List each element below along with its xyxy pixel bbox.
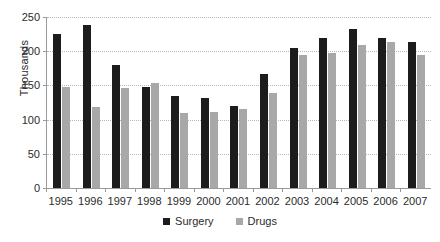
y-axis-tick-label: 150 [14,80,40,91]
bar-drugs-2000 [210,112,218,188]
bar-surgery-2003 [290,48,298,188]
bar-chart: Thousands 250200150100500 19951996199719… [0,0,440,242]
y-axis-tick-labels: 250200150100500 [14,10,40,192]
bar-group [372,17,402,188]
x-axis-tick-mark [400,188,430,193]
bar-group [401,17,431,188]
chart-legend: SurgeryDrugs [0,216,440,227]
bar-drugs-2006 [387,42,395,188]
y-axis-tick-label: 250 [14,12,40,23]
legend-swatch-icon [163,218,170,225]
bar-surgery-2001 [230,106,238,188]
bar-drugs-1999 [180,113,188,188]
bar-drugs-2001 [239,109,247,188]
x-axis-tick-mark [194,188,224,193]
bar-group [313,17,343,188]
x-axis-tick-label: 1997 [105,194,135,210]
bar-group [195,17,225,188]
bar-drugs-1996 [92,107,100,188]
x-axis-tick-mark [312,188,342,193]
bar-surgery-2002 [260,74,268,188]
bar-drugs-2002 [269,93,277,188]
bar-group [47,17,77,188]
bar-surgery-2007 [408,42,416,188]
bar-drugs-1997 [121,88,129,188]
bar-drugs-2005 [358,45,366,188]
x-axis-tick-label: 2001 [223,194,253,210]
x-axis-tick-label: 2000 [194,194,224,210]
y-axis-tick-label: 0 [14,183,40,194]
bar-drugs-2004 [328,53,336,188]
plot-area [46,17,431,189]
bar-surgery-1998 [142,87,150,188]
x-axis-tick-label: 2002 [253,194,283,210]
legend-swatch-icon [236,218,243,225]
bar-group [136,17,166,188]
x-axis-tick-mark [223,188,253,193]
legend-label: Surgery [175,216,214,227]
bar-surgery-2006 [378,38,386,188]
bar-surgery-2000 [201,98,209,188]
x-axis-tick-label: 2004 [312,194,342,210]
bar-surgery-2005 [349,29,357,188]
x-axis-tick-mark [371,188,401,193]
x-axis-ticks [46,188,430,193]
bar-drugs-2007 [417,55,425,188]
x-axis-tick-label: 1998 [135,194,165,210]
bar-group [224,17,254,188]
x-axis-tick-label: 2003 [282,194,312,210]
x-axis-tick-mark [341,188,371,193]
legend-label: Drugs [248,216,277,227]
x-axis-tick-mark [282,188,312,193]
bar-group [77,17,107,188]
legend-item-surgery: Surgery [163,216,214,227]
bar-surgery-1999 [171,96,179,188]
legend-item-drugs: Drugs [236,216,277,227]
bar-surgery-2004 [319,38,327,188]
bar-group [254,17,284,188]
x-axis-tick-mark [105,188,135,193]
x-axis-tick-mark [135,188,165,193]
x-axis-tick-label: 1995 [46,194,76,210]
x-axis-tick-mark [164,188,194,193]
x-axis-tick-labels: 1995199619971998199920002001200220032004… [46,194,430,210]
bar-group [106,17,136,188]
bar-surgery-1997 [112,65,120,188]
bar-surgery-1995 [53,34,61,188]
x-axis-tick-label: 1999 [164,194,194,210]
y-axis-tick-label: 100 [14,114,40,125]
x-axis-tick-mark [46,188,76,193]
x-axis-tick-label: 2007 [400,194,430,210]
x-axis-tick-label: 2006 [371,194,401,210]
bar-group [283,17,313,188]
bar-drugs-1998 [151,83,159,188]
x-axis-tick-mark [76,188,106,193]
x-axis-tick-label: 1996 [76,194,106,210]
bars-layer [47,17,431,188]
bar-surgery-1996 [83,25,91,188]
x-axis-tick-mark [253,188,283,193]
bar-drugs-2003 [299,55,307,188]
bar-group [165,17,195,188]
bar-group [342,17,372,188]
y-axis-tick-label: 200 [14,46,40,57]
y-axis-tick-label: 50 [14,148,40,159]
bar-drugs-1995 [62,87,70,188]
x-axis-tick-label: 2005 [341,194,371,210]
